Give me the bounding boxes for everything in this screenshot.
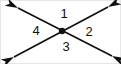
geometry-diagram-figure: 1 2 3 4 — [0, 0, 121, 64]
arrowhead-lower-right-icon — [110, 52, 121, 64]
arrowhead-upper-right-icon — [106, 0, 121, 11]
intersection-point-dot — [59, 28, 65, 34]
angle-label-2: 2 — [85, 24, 92, 39]
angle-label-4: 4 — [32, 23, 39, 38]
angle-label-3: 3 — [62, 39, 69, 54]
angle-label-1: 1 — [60, 6, 67, 21]
arrowhead-upper-left-icon — [5, 0, 20, 12]
diagram-canvas: 1 2 3 4 — [0, 0, 121, 64]
arrowhead-lower-left-icon — [1, 53, 16, 64]
